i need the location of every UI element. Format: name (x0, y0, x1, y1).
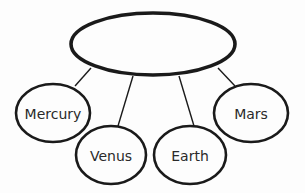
node-venus: Venus (76, 126, 146, 184)
root-node-blank (71, 13, 235, 75)
connector-mars (218, 68, 235, 86)
node-mars-label: Mars (234, 106, 268, 122)
node-mars: Mars (214, 84, 288, 142)
node-venus-label: Venus (90, 148, 132, 164)
connector-venus (118, 76, 133, 126)
connector-earth (179, 76, 194, 126)
diagram-svg: Mercury Venus Earth Mars (0, 0, 305, 193)
node-mercury: Mercury (16, 84, 90, 142)
node-mercury-label: Mercury (25, 106, 82, 122)
connector-mercury (75, 68, 91, 86)
node-earth-label: Earth (171, 148, 209, 164)
concept-map-diagram: Mercury Venus Earth Mars (0, 0, 305, 193)
node-earth: Earth (154, 126, 226, 184)
